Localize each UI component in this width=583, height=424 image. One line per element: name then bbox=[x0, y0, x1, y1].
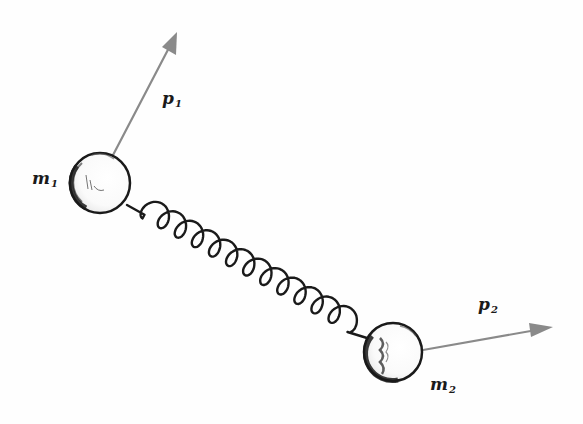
label-m2-sub: 2 bbox=[449, 384, 456, 395]
label-m2: m2 bbox=[430, 376, 456, 395]
spring bbox=[127, 202, 367, 338]
label-p2-main: p bbox=[478, 294, 490, 314]
label-m1-main: m bbox=[32, 168, 50, 188]
label-p2: p2 bbox=[478, 296, 498, 315]
label-p1-sub: 1 bbox=[175, 98, 182, 109]
label-m1-sub: 1 bbox=[51, 178, 58, 189]
arrowhead-icon bbox=[529, 323, 553, 337]
label-m2-main: m bbox=[430, 374, 448, 394]
label-p1: p1 bbox=[162, 90, 182, 109]
diagram-canvas: p1 m1 p2 m2 bbox=[0, 0, 583, 424]
momentum-arrow-p2 bbox=[423, 323, 553, 350]
label-m1: m1 bbox=[32, 170, 58, 189]
label-p2-sub: 2 bbox=[491, 304, 498, 315]
spring-coil bbox=[127, 202, 367, 338]
diagram-svg bbox=[0, 0, 583, 424]
arrowhead-icon bbox=[162, 32, 177, 55]
mass-m1 bbox=[70, 153, 130, 213]
label-p1-main: p bbox=[162, 88, 174, 108]
mass-m2 bbox=[364, 323, 422, 381]
